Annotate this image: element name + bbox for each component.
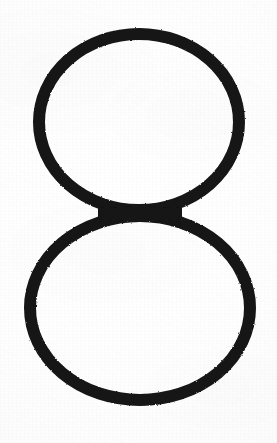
scanned-digit-image	[0, 0, 277, 443]
digit-stroke-group	[30, 34, 250, 400]
loop-junction	[98, 207, 182, 221]
lower-loop	[30, 216, 250, 400]
handwritten-digit-eight-drawing	[0, 0, 277, 443]
upper-loop	[39, 34, 239, 210]
